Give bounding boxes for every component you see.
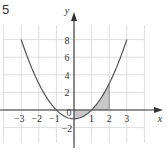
svg-text:1: 1 <box>89 113 94 124</box>
svg-text:0: 0 <box>67 107 72 118</box>
svg-text:−1: −1 <box>49 113 60 124</box>
svg-text:4: 4 <box>65 70 70 81</box>
tick-labels: −3−2−112386420−2yx <box>14 5 163 134</box>
svg-text:2: 2 <box>107 113 112 124</box>
svg-text:−2: −2 <box>62 123 73 134</box>
parabola-chart: −3−2−112386420−2yx <box>0 0 167 153</box>
svg-text:x: x <box>157 113 163 124</box>
svg-text:−2: −2 <box>31 113 42 124</box>
svg-text:2: 2 <box>65 87 70 98</box>
svg-text:y: y <box>64 5 70 16</box>
svg-text:−3: −3 <box>14 113 25 124</box>
svg-text:6: 6 <box>65 52 70 63</box>
svg-text:8: 8 <box>65 35 70 46</box>
svg-text:3: 3 <box>124 113 129 124</box>
